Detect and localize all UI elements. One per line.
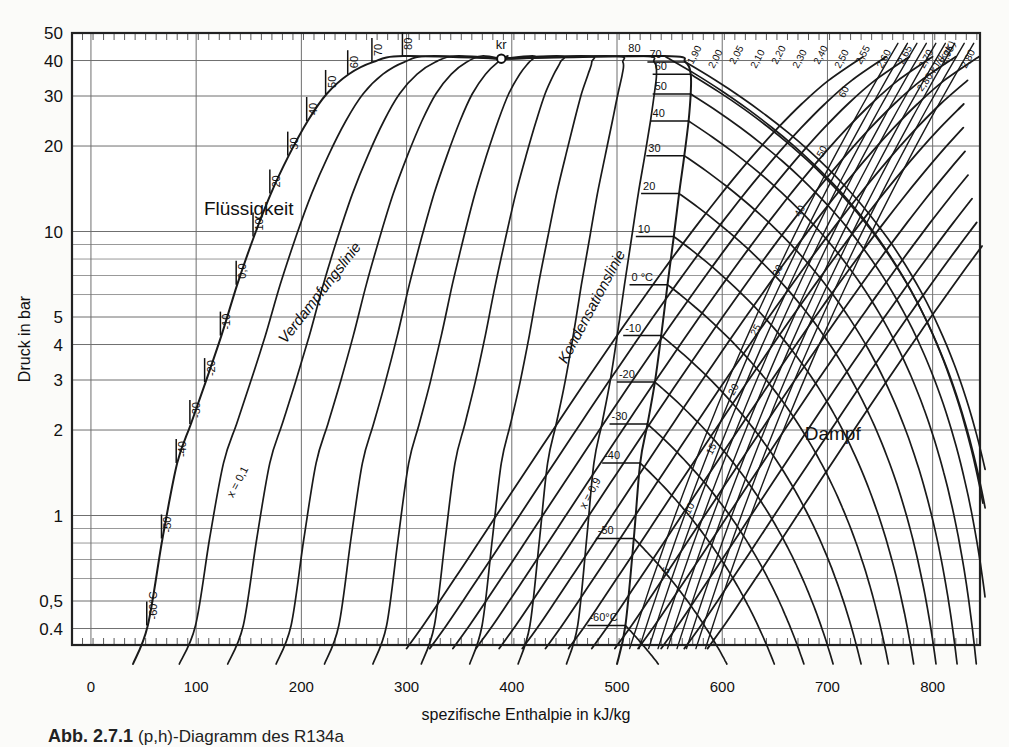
isotherm-label-vapour--10: -10 (625, 322, 641, 334)
x-tick-label-0: 0 (87, 678, 95, 695)
critical-point-marker (497, 54, 505, 62)
x-axis-title: spezifische Enthalpie in kJ/kg (422, 706, 631, 723)
x-tick-label-300: 300 (394, 678, 419, 695)
isotherm-label-vapour-0: 0 °C (632, 271, 654, 283)
ph-diagram-svg: 5040302010543210,50.40100200300400500600… (0, 0, 1009, 747)
isotherm-label-vapour--60: -60°C (589, 611, 617, 623)
isotherm-label-liquid--30: -30 (190, 402, 202, 418)
isotherm-label-vapour-70: 70 (649, 48, 661, 60)
x-tick-label-700: 700 (815, 678, 840, 695)
x-tick-label-400: 400 (499, 678, 524, 695)
caption-label: Abb. 2.7.1 (48, 726, 133, 746)
isotherm-label-liquid-80: 80 (402, 38, 414, 50)
isotherm-label-vapour-10: 10 (638, 223, 650, 235)
isotherm-label-liquid--40: -40 (176, 441, 188, 457)
x-tick-label-800: 800 (920, 678, 945, 695)
caption-text: (p,h)-Diagramm des R134a (138, 727, 344, 746)
x-tick-label-200: 200 (289, 678, 314, 695)
y-tick-label-40: 40 (44, 52, 63, 71)
y-tick-label-4: 4 (54, 336, 63, 355)
figure-caption: Abb. 2.7.1 (p,h)-Diagramm des R134a (48, 726, 344, 747)
x-tick-label-100: 100 (184, 678, 209, 695)
isotherm-label-vapour--40: -40 (604, 449, 620, 461)
isotherm-label-liquid-50: 50 (326, 76, 338, 88)
y-tick-label-30: 30 (44, 87, 63, 106)
isotherm-label-vapour--30: -30 (612, 410, 628, 422)
isotherm-label-liquid--60: -60°C (147, 591, 159, 619)
isotherm-label-vapour-30: 30 (648, 142, 660, 154)
critical-point-label: kr (496, 37, 508, 52)
isotherm-label-vapour--20: -20 (619, 368, 635, 380)
isotherm-label-liquid--50: -50 (161, 517, 173, 533)
x-tick-label-500: 500 (604, 678, 629, 695)
isotherm-label-vapour-50: 50 (655, 80, 667, 92)
y-tick-label-2: 2 (54, 421, 63, 440)
ph-diagram-figure: 5040302010543210,50.40100200300400500600… (0, 0, 1009, 747)
y-axis-title: Druck in bar (16, 295, 33, 382)
y-tick-label-50: 50 (44, 24, 63, 43)
y-tick-label-0,5: 0,5 (39, 592, 63, 611)
isotherm-label-vapour-40: 40 (653, 107, 665, 119)
isotherm-label-liquid-70: 70 (372, 44, 384, 56)
isotherm-label-liquid-20: 20 (270, 175, 282, 187)
isotherm-label-vapour-80: 80 (628, 42, 640, 54)
y-tick-label-0.4: 0.4 (39, 620, 63, 639)
isotherm-label-liquid-10: 10 (253, 218, 265, 230)
isotherm-label-liquid--20: -20 (205, 360, 217, 376)
x-tick-label-600: 600 (710, 678, 735, 695)
plot-background (72, 33, 980, 645)
isotherm-label-vapour-20: 20 (643, 180, 655, 192)
isotherm-label-liquid-40: 40 (307, 103, 319, 115)
isotherm-label-liquid--10: -10 (220, 314, 232, 330)
y-tick-label-1: 1 (54, 507, 63, 526)
y-tick-label-5: 5 (54, 308, 63, 327)
isotherm-label-liquid-60: 60 (348, 56, 360, 68)
y-tick-label-20: 20 (44, 137, 63, 156)
isotherm-label-liquid-30: 30 (288, 137, 300, 149)
y-tick-label-10: 10 (44, 223, 63, 242)
y-tick-label-3: 3 (54, 371, 63, 390)
isotherm-label-vapour--50: -50 (598, 524, 614, 536)
isotherm-label-liquid-0: 0,0 (236, 263, 248, 278)
region-label-liquid: Flüssigkeit (204, 198, 294, 219)
